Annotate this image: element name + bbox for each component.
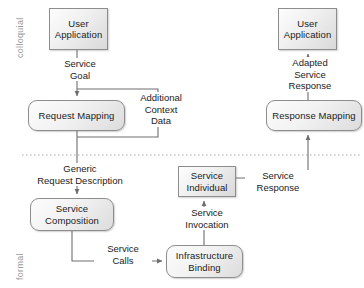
node-request-mapping[interactable]: Request Mapping — [28, 100, 125, 131]
edge-label-generic-request-description: Generic Request Description — [23, 163, 137, 186]
node-service-composition[interactable]: Service Composition — [30, 198, 114, 231]
node-user-application-left[interactable]: User Application — [49, 8, 108, 50]
node-response-mapping[interactable]: Response Mapping — [266, 100, 362, 131]
node-label-request-mapping: Request Mapping — [36, 110, 118, 122]
edge-label-service-goal: Service Goal — [50, 58, 110, 81]
node-label-user-application-left: User Application — [52, 18, 106, 41]
edge-label-service-invocation: Service Invocation — [173, 207, 241, 230]
edge-label-adapted-service-response: Adapted Service Response — [278, 57, 342, 92]
node-label-service-individual: Service Individual — [183, 170, 230, 193]
band-label-formal: formal — [15, 253, 25, 280]
diagram-canvas: colloquial formal User Application Reque… — [0, 0, 364, 288]
node-label-infrastructure-binding: Infrastructure Binding — [173, 250, 236, 273]
node-infrastructure-binding[interactable]: Infrastructure Binding — [166, 245, 243, 278]
edge-label-service-calls: Service Calls — [94, 243, 152, 266]
node-label-service-composition: Service Composition — [42, 203, 102, 226]
band-label-colloquial: colloquial — [15, 17, 25, 58]
edge-label-additional-context-data: Additional Context Data — [130, 92, 192, 127]
node-label-user-application-right: User Application — [281, 18, 335, 41]
node-user-application-right[interactable]: User Application — [278, 8, 337, 50]
node-label-response-mapping: Response Mapping — [269, 110, 358, 122]
node-service-individual[interactable]: Service Individual — [178, 166, 236, 197]
edge-label-service-response: Service Response — [245, 170, 311, 193]
